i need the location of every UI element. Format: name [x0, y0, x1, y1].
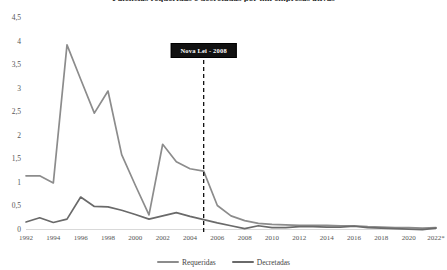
y-tick-label: 0	[17, 226, 21, 234]
legend-swatch	[232, 261, 254, 263]
y-tick-label: 2	[17, 132, 21, 140]
x-tick-label: 2018	[374, 235, 388, 242]
x-tick-label: 2004	[183, 235, 197, 242]
legend-item-decretadas[interactable]: Decretadas	[232, 259, 290, 267]
y-tick-label: 3,5	[12, 61, 21, 69]
y-tick-label: 4	[17, 38, 21, 46]
chart-legend: RequeridasDecretadas	[0, 259, 447, 267]
x-tick-label: 2002	[156, 235, 170, 242]
legend-swatch	[157, 261, 179, 263]
x-tick-label: 2022*	[427, 235, 445, 242]
y-tick-label: 0,5	[12, 203, 21, 211]
x-tick-label: 2010	[265, 235, 279, 242]
x-tick-label: 1992	[19, 235, 33, 242]
plot-area: 4,543,532,521,510,50 1992199419961998200…	[26, 18, 436, 230]
legend-label: Requeridas	[182, 259, 216, 267]
y-tick-label: 1	[17, 179, 21, 187]
series-line-decretadas	[26, 197, 436, 230]
x-tick-label: 1996	[74, 235, 88, 242]
y-tick-label: 1,5	[12, 156, 21, 164]
x-tick-label: 2014	[320, 235, 334, 242]
legend-label: Decretadas	[257, 259, 290, 267]
chart-title: Falências requeridas e decretadas por mi…	[0, 0, 447, 2]
x-tick-label: 2020	[402, 235, 416, 242]
line-chart: Falências requeridas e decretadas por mi…	[0, 0, 447, 270]
x-tick-label: 2000	[128, 235, 142, 242]
y-tick-label: 3	[17, 85, 21, 93]
x-tick-label: 2006	[210, 235, 224, 242]
series-line-requeridas	[26, 45, 436, 228]
x-tick-label: 2008	[238, 235, 252, 242]
y-tick-label: 2,5	[12, 108, 21, 116]
x-tick-label: 1994	[46, 235, 60, 242]
x-tick-label: 1998	[101, 235, 115, 242]
annotation-label-box: Nova Lei - 2008	[170, 43, 237, 58]
x-tick-label: 2012	[292, 235, 306, 242]
legend-item-requeridas[interactable]: Requeridas	[157, 259, 216, 267]
y-tick-label: 4,5	[12, 14, 21, 22]
x-tick-label: 2016	[347, 235, 361, 242]
